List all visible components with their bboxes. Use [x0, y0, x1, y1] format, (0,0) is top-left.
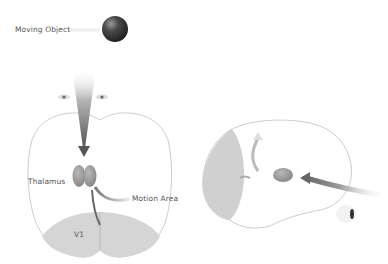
thalamus-right [84, 165, 97, 187]
label-v1: V1 [74, 230, 84, 239]
v1-region-side [203, 129, 244, 220]
diagram-canvas [0, 0, 388, 264]
label-moving-object: Moving Object [15, 25, 70, 34]
label-motion-area: Motion Area [132, 194, 178, 203]
thalamus-side [273, 168, 293, 182]
moving-object-ball [102, 16, 128, 42]
label-thalamus: Thalamus [28, 177, 65, 186]
